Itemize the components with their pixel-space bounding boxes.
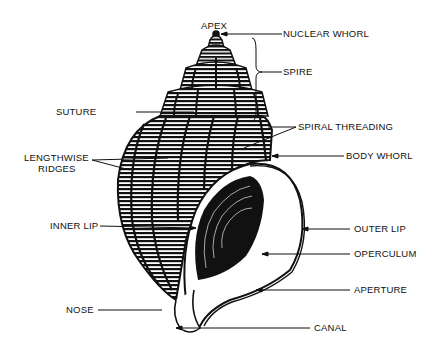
label-nuclear-whorl: NUCLEAR WHORL bbox=[283, 28, 369, 39]
label-outer-lip: OUTER LIP bbox=[354, 223, 406, 234]
label-apex: APEX bbox=[201, 20, 227, 31]
label-spiral-threading: SPIRAL THREADING bbox=[298, 121, 393, 132]
label-nose: NOSE bbox=[66, 304, 94, 315]
label-body-whorl: BODY WHORL bbox=[346, 150, 413, 161]
spire-shape bbox=[160, 31, 268, 116]
label-ridges: RIDGES bbox=[38, 163, 76, 174]
label-lengthwise: LENGTHWISE bbox=[24, 152, 89, 163]
shell-diagram: APEX NUCLEAR WHORL SPIRE SUTURE SPIRAL T… bbox=[0, 0, 439, 354]
label-spire: SPIRE bbox=[283, 66, 313, 77]
label-aperture: APERTURE bbox=[354, 284, 407, 295]
label-inner-lip: INNER LIP bbox=[50, 220, 98, 231]
label-suture: SUTURE bbox=[56, 106, 96, 117]
label-operculum: OPERCULUM bbox=[354, 248, 417, 259]
shell-illustration bbox=[0, 0, 439, 354]
label-canal: CANAL bbox=[314, 322, 347, 333]
